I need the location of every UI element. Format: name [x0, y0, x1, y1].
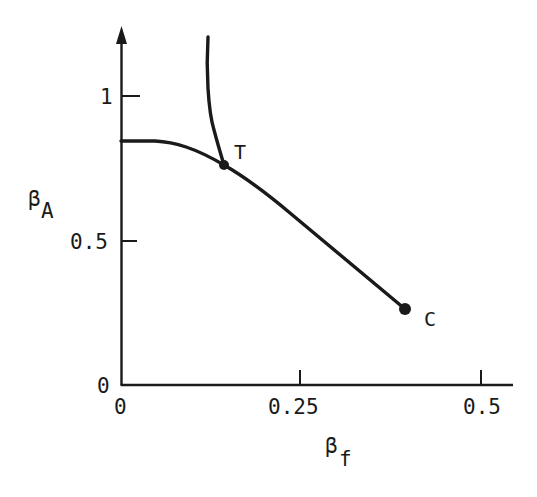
y-axis-arrow-icon	[116, 26, 127, 44]
point-C-label: C	[424, 307, 436, 331]
lower-branch-curve	[121, 141, 405, 309]
curves	[121, 37, 405, 309]
point-C-marker	[399, 303, 411, 315]
y-axis-label-subscript: A	[41, 199, 54, 223]
marked-points: T C	[219, 140, 436, 331]
x-tick-label-05: 0.5	[463, 395, 501, 419]
y-tick-label-0: 0	[97, 374, 110, 398]
y-tick-label-05: 0.5	[70, 230, 108, 254]
y-axis-label-beta: β	[28, 187, 41, 211]
axes	[116, 26, 513, 385]
chart-canvas: 1 0.5 0 0 0.25 0.5 β A β f T C	[0, 0, 537, 497]
x-tick-label-025: 0.25	[268, 395, 319, 419]
y-axis-label: β A	[28, 187, 54, 223]
y-tick-label-1: 1	[100, 85, 113, 109]
point-T-label: T	[234, 140, 246, 164]
x-axis-label: β f	[325, 434, 352, 471]
x-tick-label-0: 0	[114, 395, 127, 419]
phase-diagram-figure: 1 0.5 0 0 0.25 0.5 β A β f T C	[0, 0, 537, 497]
point-T-marker	[219, 160, 229, 170]
x-axis-label-beta: β	[325, 434, 338, 458]
tick-labels: 1 0.5 0 0 0.25 0.5	[70, 85, 501, 419]
upper-branch-curve	[207, 37, 224, 165]
x-axis-label-subscript: f	[339, 447, 352, 471]
